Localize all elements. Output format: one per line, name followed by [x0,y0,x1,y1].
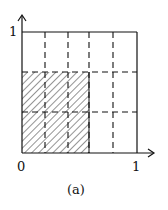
origin-label: 0 [17,160,25,173]
unit-square-diagram [0,0,168,210]
y-axis-one-label: 1 [9,25,17,38]
x-axis-one-label: 1 [132,160,140,173]
figure-caption: (a) [67,183,85,196]
